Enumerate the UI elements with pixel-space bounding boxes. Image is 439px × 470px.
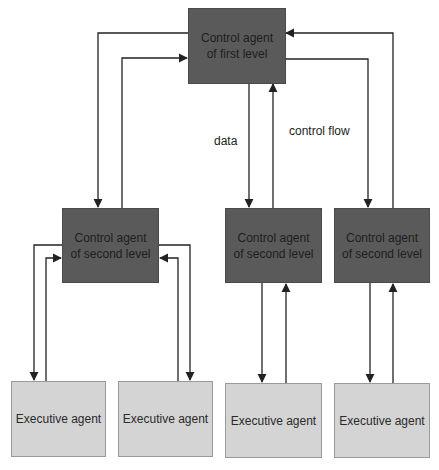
- executive-agent-4: Executive agent: [334, 383, 430, 458]
- second-level-control-agent-1: Control agent of second level: [62, 208, 159, 283]
- node-label: Executive agent: [339, 413, 424, 429]
- data-annotation: data: [214, 134, 237, 148]
- node-label: Executive agent: [231, 413, 316, 429]
- node-label: Control agent of second level: [340, 230, 424, 262]
- executive-agent-3: Executive agent: [225, 383, 322, 458]
- second-level-control-agent-3: Control agent of second level: [334, 208, 430, 283]
- node-label: Executive agent: [16, 411, 101, 427]
- hierarchy-diagram: Control agent of first level Control age…: [0, 0, 439, 470]
- executive-agent-1: Executive agent: [11, 381, 106, 457]
- node-label: Control agent of first level: [197, 30, 277, 62]
- first-level-control-agent: Control agent of first level: [188, 8, 286, 84]
- second-level-control-agent-2: Control agent of second level: [225, 208, 322, 283]
- node-label: Control agent of second level: [232, 230, 316, 262]
- executive-agent-2: Executive agent: [118, 381, 213, 457]
- node-label: Control agent of second level: [69, 230, 153, 262]
- control-flow-annotation: control flow: [289, 124, 350, 138]
- node-label: Executive agent: [123, 411, 208, 427]
